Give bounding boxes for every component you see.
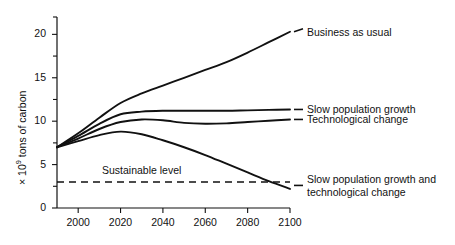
series-line-0 bbox=[57, 32, 290, 147]
series-line-1 bbox=[57, 109, 290, 147]
series-label-3: Slow population growth andtechnological … bbox=[307, 173, 436, 198]
y-tick-label: 15 bbox=[24, 71, 46, 83]
x-tick-label: 2020 bbox=[99, 216, 143, 228]
series-label-2: Technological change bbox=[307, 113, 408, 126]
x-tick-label: 2000 bbox=[56, 216, 100, 228]
label-leader-lines bbox=[294, 29, 303, 186]
sustainable-level-label: Sustainable level bbox=[102, 164, 181, 177]
series-label-0: Business as usual bbox=[307, 26, 392, 39]
series-leader-0 bbox=[294, 29, 303, 32]
x-tick-label: 2060 bbox=[183, 216, 227, 228]
y-tick-label: 5 bbox=[24, 158, 46, 170]
y-tick-label: 10 bbox=[24, 114, 46, 126]
y-axis-ticks bbox=[52, 34, 57, 208]
x-axis-ticks bbox=[78, 208, 290, 213]
chart-figure: × 109 tons of carbon 05101520 2000202020… bbox=[0, 0, 455, 245]
y-axis-label: × 109 tons of carbon bbox=[14, 91, 28, 185]
y-tick-label: 0 bbox=[24, 201, 46, 213]
x-tick-label: 2080 bbox=[226, 216, 270, 228]
x-tick-label: 2040 bbox=[141, 216, 185, 228]
series-line-3 bbox=[57, 132, 290, 189]
y-tick-label: 20 bbox=[24, 27, 46, 39]
x-tick-label: 2100 bbox=[268, 216, 312, 228]
